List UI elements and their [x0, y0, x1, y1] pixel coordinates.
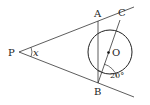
label-b: B: [94, 86, 101, 97]
geometry-diagram: P A B C O x 20°: [0, 0, 150, 105]
label-c: C: [118, 7, 126, 18]
angle-arc-p: [31, 47, 32, 56]
label-angle-x: x: [33, 47, 39, 58]
center-dot: [107, 51, 110, 54]
label-a: A: [93, 8, 102, 19]
label-o: O: [112, 47, 120, 58]
label-p: P: [8, 47, 15, 58]
circle-o: [88, 30, 132, 74]
label-angle-20: 20°: [110, 71, 124, 80]
